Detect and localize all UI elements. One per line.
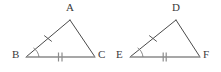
- angle-arc-b-1: [33, 48, 39, 57]
- vertex-label-b: B: [12, 49, 19, 60]
- vertex-label-a: A: [66, 2, 74, 13]
- side-ac: [70, 20, 95, 57]
- angle-mark-b: [33, 48, 39, 57]
- vertex-label-f: F: [203, 49, 209, 60]
- vertex-label-e: E: [116, 49, 123, 60]
- triangle-def: [130, 20, 200, 62]
- side-df: [176, 20, 200, 57]
- geometry-figure-canvas: A B C D E F: [0, 0, 221, 72]
- vertex-label-d: D: [172, 2, 180, 13]
- vertex-label-c: C: [98, 49, 105, 60]
- triangles-diagram: [0, 0, 221, 72]
- triangle-abc: [26, 20, 95, 62]
